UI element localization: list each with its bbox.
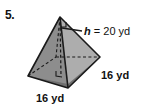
height-variable: h — [84, 25, 91, 37]
side-label-right: 16 yd — [101, 70, 129, 81]
problem-number: 5. — [5, 9, 14, 21]
pyramid-figure: 5. h = 20 yd 16 yd 16 yd — [0, 0, 146, 110]
pyramid-diagram-svg — [0, 0, 146, 110]
side-label-bottom: 16 yd — [36, 93, 64, 104]
height-value: 20 — [103, 25, 115, 37]
height-label: h = 20 yd — [84, 26, 130, 37]
height-unit: yd — [119, 25, 131, 37]
